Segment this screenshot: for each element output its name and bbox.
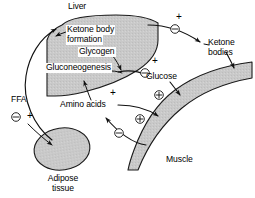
- metabolic-flow-diagram: Liver Ketone body formation Glycogen Glu…: [0, 0, 255, 198]
- glucose-label: Glucose: [146, 72, 177, 82]
- liver-process-ketone-body-formation-line2: formation: [66, 35, 103, 45]
- sign-plus-amino-acid-influx: +: [110, 88, 116, 98]
- sign-plus-circled-amino-release: [136, 115, 145, 124]
- adipose-tissue-label-line2: tissue: [38, 184, 88, 194]
- sign-minus-circled-ffa: [12, 113, 21, 122]
- muscle-label: Muscle: [166, 155, 193, 165]
- ketone-bodies-label-line2: bodies: [208, 48, 233, 58]
- liver-process-gluconeogenesis: Gluconeogenesis: [45, 63, 112, 73]
- sign-plus-ffa: +: [27, 111, 33, 121]
- amino-acids-label: Amino acids: [60, 100, 106, 110]
- sign-minus-circled-muscle: [115, 129, 124, 138]
- adipose-tissue-shape: [31, 124, 92, 173]
- liver-process-glycogen: Glycogen: [78, 47, 116, 57]
- diagram-canvas: [0, 0, 255, 198]
- sign-minus-ketone: [171, 25, 180, 34]
- sign-plus-ketone-efflux: +: [176, 12, 182, 22]
- sign-plus-glucose-efflux: +: [152, 56, 158, 66]
- ffa-label: FFA: [11, 95, 26, 105]
- liver-label: Liver: [68, 2, 86, 12]
- sign-plus-circled-glucose-uptake: [155, 91, 164, 100]
